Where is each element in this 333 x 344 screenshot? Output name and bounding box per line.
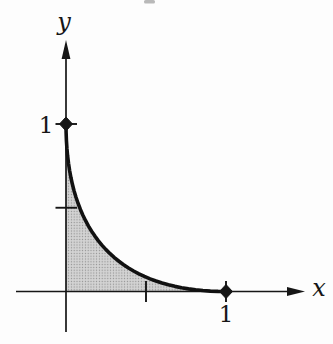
shaded-region <box>66 124 226 292</box>
y-unit-tick-label: 1 <box>39 112 54 138</box>
x-axis-label: x <box>312 274 326 302</box>
point-marker <box>220 285 233 299</box>
x-axis-arrowhead-icon <box>287 287 305 296</box>
figure-canvas: y 1 1 x <box>0 0 333 344</box>
top-crop-artifact <box>144 0 155 4</box>
plot-svg: y 1 1 x <box>0 0 333 344</box>
point-marker <box>60 117 73 131</box>
y-axis-arrowhead-icon <box>62 40 71 59</box>
x-unit-tick-label: 1 <box>219 301 234 327</box>
y-axis-label: y <box>56 8 71 36</box>
